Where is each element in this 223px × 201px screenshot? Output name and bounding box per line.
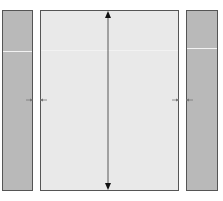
arrows-overlay xyxy=(0,0,223,201)
left-gap-arrow-icon xyxy=(26,99,47,102)
right-gap-arrow-icon xyxy=(172,99,193,102)
vertical-double-arrow-icon xyxy=(105,11,111,190)
